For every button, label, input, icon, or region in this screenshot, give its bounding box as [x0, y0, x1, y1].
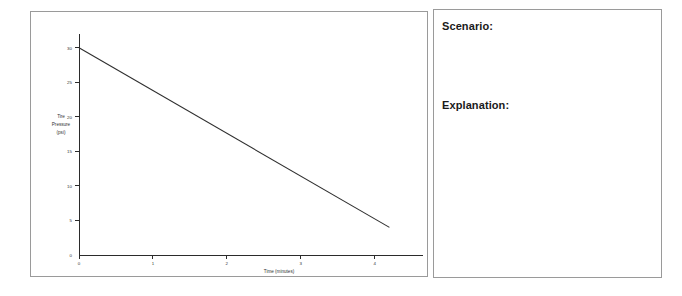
y-tick-label-10: 10 [67, 184, 72, 189]
x-tick-label-4: 4 [373, 261, 376, 266]
chart-panel: 30 25 20 15 10 5 0 0 1 2 [30, 11, 428, 277]
x-tick-label-1: 1 [152, 261, 155, 266]
explanation-answer-area[interactable] [442, 112, 661, 152]
y-axis-title-line-3: (psi) [57, 130, 66, 135]
worksheet-page: 30 25 20 15 10 5 0 0 1 2 [0, 0, 682, 296]
y-tick-label-0: 0 [70, 253, 73, 258]
y-tick-label-25: 25 [67, 80, 72, 85]
scenario-answer-area[interactable] [442, 33, 661, 73]
x-axis-ticks: 0 1 2 3 4 [78, 255, 377, 266]
y-axis-title-line-2: Pressure [52, 122, 71, 127]
pressure-series-line [79, 48, 389, 228]
y-tick-label-30: 30 [67, 46, 72, 51]
answer-panel: Scenario: Explanation: [433, 9, 662, 278]
x-tick-label-2: 2 [226, 261, 229, 266]
y-axis-ticks: 30 25 20 15 10 5 0 [67, 46, 79, 258]
x-tick-label-0: 0 [78, 261, 81, 266]
scenario-label: Scenario: [442, 20, 661, 33]
x-tick-label-3: 3 [300, 261, 303, 266]
y-axis-title-line-1: Tire [57, 114, 65, 119]
y-tick-label-20: 20 [67, 115, 72, 120]
tire-pressure-line-chart: 30 25 20 15 10 5 0 0 1 2 [31, 12, 427, 276]
y-tick-label-15: 15 [67, 149, 72, 154]
y-tick-label-5: 5 [70, 218, 73, 223]
explanation-label: Explanation: [442, 99, 661, 112]
x-axis-title: Time (minutes) [264, 269, 295, 274]
